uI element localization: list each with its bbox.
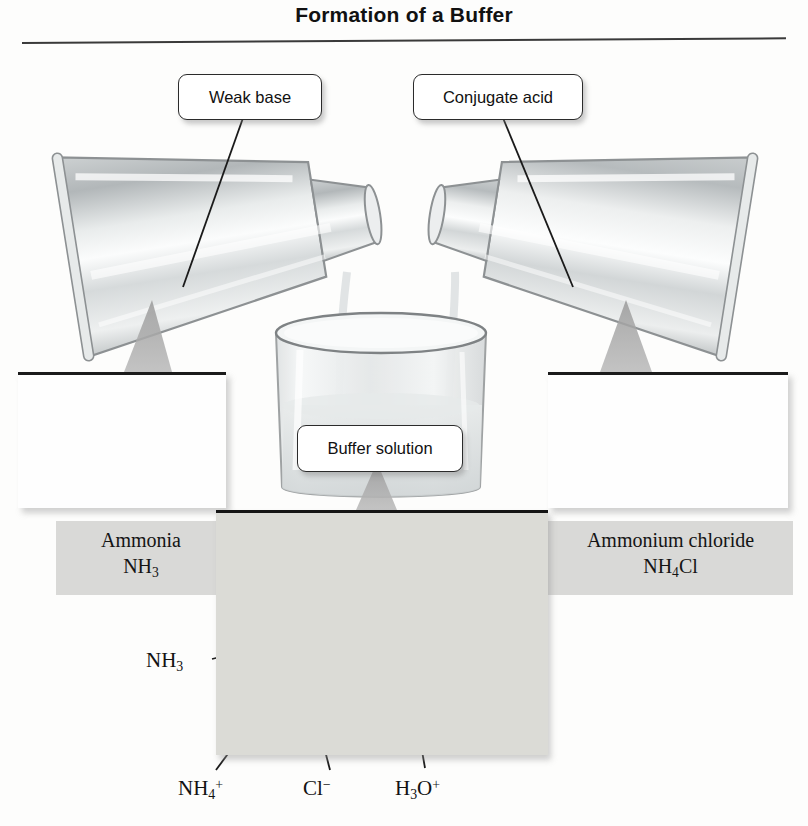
callout-weak-base-label: Weak base: [209, 88, 291, 107]
species-label-cl: Cl−: [303, 776, 331, 801]
caption-ammonium-chloride: Ammonium chloride NH4Cl: [548, 521, 793, 595]
caption-ammonia-formula: NH3: [56, 553, 226, 582]
inset-ammonium-chloride: [548, 372, 788, 508]
figure-formation-of-a-buffer: Formation of a Buffer: [0, 0, 808, 826]
callout-conjugate-acid-label: Conjugate acid: [443, 88, 553, 107]
species-label-nh4: NH4+: [178, 776, 223, 803]
caption-ammonium-chloride-formula: NH4Cl: [548, 553, 793, 582]
callout-weak-base[interactable]: Weak base: [178, 74, 322, 120]
species-label-h3o: H3O+: [395, 776, 440, 803]
species-label-nh3: NH3: [146, 648, 183, 675]
caption-ammonia: Ammonia NH3: [56, 521, 226, 595]
callout-buffer-solution-label: Buffer solution: [327, 439, 432, 458]
caption-ammonium-chloride-name: Ammonium chloride: [548, 527, 793, 553]
panel-buffer-solution-zoom: [216, 510, 548, 755]
callout-conjugate-acid[interactable]: Conjugate acid: [413, 74, 583, 120]
inset-ammonia: [18, 372, 226, 508]
callout-buffer-solution[interactable]: Buffer solution: [297, 425, 463, 472]
caption-ammonia-name: Ammonia: [56, 527, 226, 553]
